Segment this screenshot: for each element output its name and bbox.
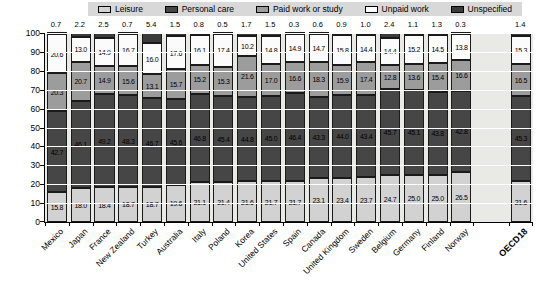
y-tick-mark bbox=[40, 184, 44, 185]
y-tick-mark bbox=[40, 90, 44, 91]
plot-area: 15.842.720.320.618.046.120.713.018.449.2… bbox=[44, 33, 533, 223]
bar-segment-leisure: 18.0 bbox=[71, 188, 91, 222]
bar-segment-value: 15.4 bbox=[427, 74, 449, 81]
y-axis: 0102030405060708090100 bbox=[0, 33, 40, 222]
bar-segment-personal-care: 46.4 bbox=[285, 93, 305, 181]
unspecified-value-label: 2.2 bbox=[74, 21, 84, 29]
bar-segment-value: 13.1 bbox=[141, 83, 163, 90]
bar-segment-personal-care: 46.1 bbox=[71, 101, 91, 188]
bar-segment-personal-care: 45.6 bbox=[166, 99, 186, 185]
bar-segment-personal-care: 46.8 bbox=[190, 94, 210, 182]
bar-segment-value: 25.0 bbox=[427, 195, 449, 202]
x-axis-labels: MexicoJapanFranceNew ZealandTurkeyAustra… bbox=[44, 225, 532, 287]
unspecified-value-label: 0.8 bbox=[194, 21, 204, 29]
bar-segment-value: 45.6 bbox=[165, 138, 187, 145]
unspecified-value-label: 0.9 bbox=[336, 21, 346, 29]
bar-segment-unpaid-work: 17.4 bbox=[213, 34, 233, 67]
gridline-20 bbox=[45, 184, 533, 185]
x-category-label-poland: Poland bbox=[207, 227, 232, 252]
bar-segment-value: 17.0 bbox=[260, 76, 282, 83]
bar-segment-value: 44.8 bbox=[236, 135, 258, 142]
bar-segment-value: 18.7 bbox=[141, 201, 163, 208]
bar-segment-value: 43.4 bbox=[355, 133, 377, 140]
y-tick-label: 70 bbox=[31, 85, 40, 94]
bar-segment-leisure: 25.0 bbox=[404, 175, 424, 222]
x-category-label-japan: Japan bbox=[66, 227, 88, 249]
unspecified-value-label: 1.5 bbox=[265, 21, 275, 29]
bar-segment-unpaid-work: 13.0 bbox=[71, 37, 91, 62]
bar-segment-paid-work-or-study: 13.1 bbox=[142, 74, 162, 99]
unspecified-value-label: 2.5 bbox=[98, 21, 108, 29]
bar-segment-paid-work-or-study: 12.8 bbox=[380, 65, 400, 89]
x-tick-mark bbox=[532, 223, 533, 226]
bar-segment-unpaid-work: 14.8 bbox=[261, 36, 281, 64]
bar-segment-value: 18.7 bbox=[117, 201, 139, 208]
bar-segment-value: 14.7 bbox=[308, 45, 330, 52]
bar-segment-leisure: 21.7 bbox=[285, 181, 305, 222]
y-tick-label: 80 bbox=[31, 67, 40, 76]
bar-segment-leisure: 21.4 bbox=[213, 182, 233, 222]
gridline-30 bbox=[45, 165, 533, 166]
unspecified-values-row: 0.72.22.50.75.41.50.80.51.71.50.30.60.91… bbox=[44, 21, 532, 32]
bar-segment-unpaid-work: 15.3 bbox=[511, 36, 531, 65]
legend-swatch bbox=[98, 6, 111, 13]
bar-segment-value: 21.1 bbox=[189, 199, 211, 206]
legend-item-paid-work-or-study: Paid work or study bbox=[256, 5, 343, 14]
bar-segment-leisure: 18.7 bbox=[118, 187, 138, 222]
y-tick-label: 30 bbox=[31, 161, 40, 170]
gridline-90 bbox=[45, 52, 533, 53]
bar-segment-unpaid-work: 14.9 bbox=[285, 34, 305, 62]
bar-segment-paid-work-or-study: 13.6 bbox=[404, 64, 424, 90]
bar-segment-paid-work-or-study: 16.6 bbox=[451, 60, 471, 91]
bar-segment-unpaid-work: 15.8 bbox=[332, 35, 352, 65]
y-tick-label: 90 bbox=[31, 48, 40, 57]
unspecified-value-label: 1.5 bbox=[170, 21, 180, 29]
legend-label: Personal care bbox=[182, 5, 234, 14]
unspecified-value-label: 1.7 bbox=[241, 21, 251, 29]
bar-segment-leisure: 26.5 bbox=[451, 172, 471, 222]
bar-segment-value: 16.6 bbox=[450, 72, 472, 79]
gridline-80 bbox=[45, 71, 533, 72]
bar-segment-value: 14.9 bbox=[93, 77, 115, 84]
bar-segment-value: 15.6 bbox=[117, 77, 139, 84]
bar-segment-value: 44.0 bbox=[331, 133, 353, 140]
y-tick-label: 100 bbox=[26, 29, 40, 38]
y-tick-mark bbox=[40, 33, 44, 34]
bar-segment-value: 43.3 bbox=[308, 134, 330, 141]
bar-segment-paid-work-or-study: 16.6 bbox=[285, 62, 305, 93]
gridline-40 bbox=[45, 146, 533, 147]
legend-item-unpaid-work: Unpaid work bbox=[365, 5, 429, 14]
bar-segment-leisure: 18.4 bbox=[94, 187, 114, 222]
x-category-label-norway: Norway bbox=[443, 227, 469, 253]
bar-segment-value: 46.7 bbox=[141, 139, 163, 146]
bar-segment-unpaid-work: 15.2 bbox=[404, 35, 424, 64]
unspecified-value-label: 0.7 bbox=[51, 21, 61, 29]
bar-segment-personal-care: 45.7 bbox=[380, 89, 400, 175]
bar-segment-value: 15.8 bbox=[46, 204, 68, 211]
x-category-label-sweden: Sweden bbox=[347, 227, 375, 255]
y-tick-mark bbox=[40, 146, 44, 147]
bar-segment-unpaid-work: 13.8 bbox=[451, 34, 471, 60]
x-category-label-italy: Italy bbox=[191, 227, 208, 244]
bar-segment-value: 13.6 bbox=[403, 73, 425, 80]
legend-item-personal-care: Personal care bbox=[165, 5, 234, 14]
bar-segment-value: 45.7 bbox=[379, 129, 401, 136]
bar-segment-leisure: 25.0 bbox=[428, 175, 448, 222]
bar-segment-leisure: 21.6 bbox=[237, 181, 257, 222]
legend-swatch bbox=[165, 6, 178, 13]
unspecified-value-label: 0.3 bbox=[289, 21, 299, 29]
y-tick-label: 60 bbox=[31, 104, 40, 113]
unspecified-value-label: 5.4 bbox=[146, 21, 156, 29]
bar-segment-value: 15.2 bbox=[189, 76, 211, 83]
y-tick-mark bbox=[40, 165, 44, 166]
bar-segment-value: 24.7 bbox=[379, 195, 401, 202]
bar-segment-unpaid-work: 16.1 bbox=[190, 35, 210, 65]
time-use-stacked-bar-chart: LeisurePersonal carePaid work or studyUn… bbox=[0, 0, 537, 288]
x-category-label-finland: Finland bbox=[420, 227, 446, 253]
bar-segment-unpaid-work: 14.5 bbox=[428, 35, 448, 62]
bar-segment-value: 20.7 bbox=[70, 78, 92, 85]
unspecified-value-label: 1.4 bbox=[515, 21, 525, 29]
bar-segment-value: 46.8 bbox=[189, 134, 211, 141]
legend-item-unspecified: Unspecified bbox=[451, 5, 512, 14]
bar-segment-unpaid-work: 20.6 bbox=[47, 34, 67, 73]
